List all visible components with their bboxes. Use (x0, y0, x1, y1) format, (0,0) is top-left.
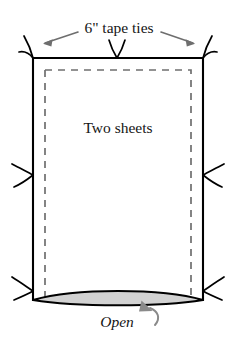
two-sheets-label: Two sheets (83, 119, 152, 136)
figure-container: 6" tape ties (0, 0, 239, 345)
tape-tie-right-middle-icon (203, 164, 224, 187)
bag-diagram: 6" tape ties (0, 0, 239, 345)
tape-tie-top-right-icon (203, 36, 217, 58)
tape-tie-left-middle-icon (12, 164, 33, 187)
bag-outline (33, 58, 203, 300)
leader-arrow-right (161, 32, 195, 47)
tape-tie-top-left-icon (19, 36, 33, 58)
tape-tie-top-center-icon (109, 40, 125, 58)
tape-tie-bottom-left-icon (12, 277, 33, 300)
open-label: Open (100, 313, 134, 330)
leader-arrow-left (43, 32, 78, 47)
tape-tie-bottom-right-icon (203, 277, 224, 300)
tape-ties-label: 6" tape ties (84, 19, 153, 36)
